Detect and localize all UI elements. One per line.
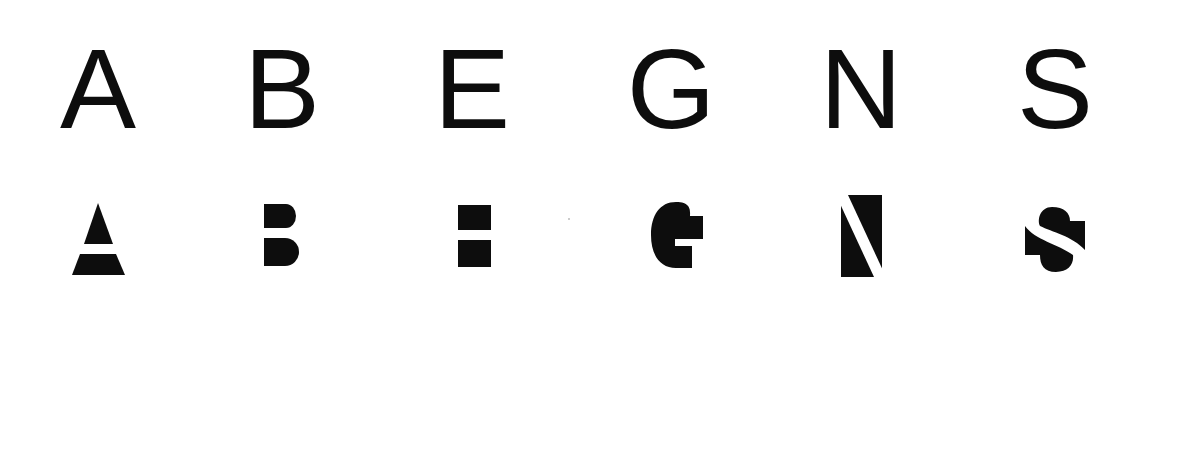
scan-speck xyxy=(568,218,570,220)
abstract-s-glyph xyxy=(1025,207,1085,272)
abstract-a-glyph xyxy=(72,203,125,275)
abstract-b-glyph xyxy=(264,204,299,266)
abstract-e-glyph xyxy=(458,205,491,267)
abstract-glyph-row xyxy=(0,0,1180,469)
abstract-g-glyph xyxy=(651,202,703,268)
abstract-n-glyph xyxy=(836,195,886,277)
